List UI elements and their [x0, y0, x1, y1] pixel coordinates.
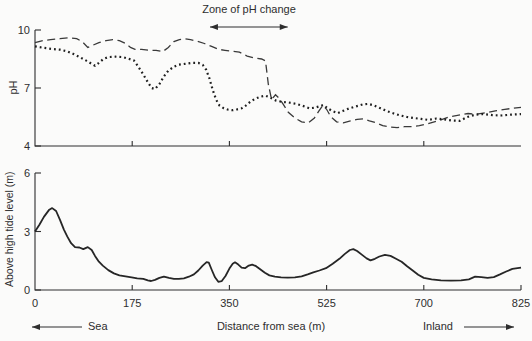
figure: 10746300175350525700825 Zone of pH chang… — [0, 0, 532, 341]
ph-axis-title: pH — [8, 77, 19, 99]
ph-chart-axis — [35, 30, 521, 146]
inland-direction-arrow-head — [506, 324, 514, 330]
elevation-chart-y-tick-label: 3 — [24, 226, 30, 238]
dashed-ph-series-line — [35, 38, 521, 128]
elevation-chart-x-tick-label: 700 — [415, 297, 433, 309]
sea-direction-arrow-head — [32, 324, 40, 330]
elevation-chart-x-tick-label: 0 — [32, 297, 38, 309]
ph-chart-y-tick-label: 7 — [24, 82, 30, 94]
elevation-chart-axis — [35, 173, 521, 290]
elevation-chart-x-tick-label: 825 — [512, 297, 530, 309]
terrain-profile-line — [35, 208, 521, 282]
dotted-ph-series-line — [35, 46, 521, 121]
chart-canvas: 10746300175350525700825 — [0, 0, 532, 341]
ph-chart-y-tick-label: 10 — [18, 24, 30, 36]
ph-chart-y-tick-label: 4 — [24, 140, 30, 152]
zone-extent-arrow-head — [280, 24, 288, 30]
elevation-axis-title: Above high tide level (m) — [4, 149, 15, 309]
zone-extent-arrow-head — [210, 24, 218, 30]
elevation-chart-y-tick-label: 6 — [24, 167, 30, 179]
inland-direction-label: Inland — [423, 321, 453, 332]
zone-of-ph-change-annotation: Zone of pH change — [202, 4, 296, 15]
sea-direction-label: Sea — [88, 321, 108, 332]
distance-axis-title: Distance from sea (m) — [217, 321, 325, 332]
elevation-chart-y-tick-label: 0 — [24, 284, 30, 296]
elevation-chart-x-tick-label: 175 — [123, 297, 141, 309]
elevation-chart-x-tick-label: 350 — [220, 297, 238, 309]
elevation-chart-x-tick-label: 525 — [317, 297, 335, 309]
